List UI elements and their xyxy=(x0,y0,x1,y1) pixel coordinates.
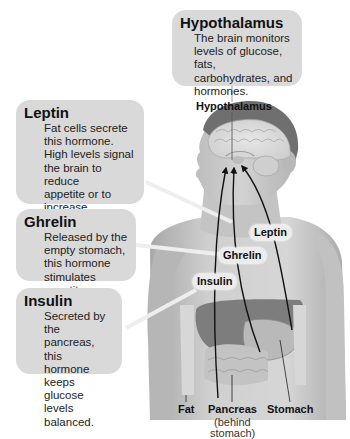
insulin-callout: Insulin Secreted by the pancreas, this h… xyxy=(16,288,122,374)
hypothalamus-callout: Hypothalamus The brain monitors levels o… xyxy=(172,10,302,86)
text-line: pancreas, this xyxy=(44,336,114,362)
fat-label: Fat xyxy=(178,403,195,416)
leptin-callout: Leptin Fat cells secrete this hormone. H… xyxy=(16,100,144,204)
text-line: glucose levels xyxy=(44,389,114,415)
text-line: Released by the xyxy=(44,231,128,244)
stomach-label: Stomach xyxy=(267,403,313,416)
leptin-pill: Leptin xyxy=(250,225,291,240)
text-line: carbohydrates, and xyxy=(194,72,294,85)
hypothalamus-label: Hypothalamus xyxy=(196,100,268,113)
hypothalamus-callout-title: Hypothalamus xyxy=(180,14,294,31)
text-line: balanced. xyxy=(44,416,114,429)
ghrelin-callout: Ghrelin Released by the empty stomach, t… xyxy=(16,209,136,281)
text-line: The brain monitors xyxy=(194,32,294,45)
text-line: High levels signal xyxy=(44,148,136,161)
text-line: levels of glucose, fats, xyxy=(194,45,294,71)
text-line: this hormone xyxy=(44,257,128,270)
insulin-callout-text: Secreted by the pancreas, this hormone k… xyxy=(24,310,114,429)
insulin-callout-title: Insulin xyxy=(24,292,114,309)
text-line: hormone keeps xyxy=(44,363,114,389)
intestine-shape xyxy=(204,344,268,385)
text-line: hormones. xyxy=(194,85,294,98)
text-line: Secreted by the xyxy=(44,310,114,336)
pancreas-label: Pancreas xyxy=(208,403,257,416)
text-line: empty stomach, xyxy=(44,244,128,257)
insulin-pill: Insulin xyxy=(193,274,236,289)
hypothalamus-callout-text: The brain monitors levels of glucose, fa… xyxy=(180,32,294,98)
text-line: appetite or to xyxy=(44,188,136,201)
ghrelin-callout-title: Ghrelin xyxy=(24,213,128,230)
text-line: this hormone. xyxy=(44,135,136,148)
text-line: the brain to reduce xyxy=(44,162,136,188)
pancreas-sub-label-2: stomach) xyxy=(210,427,255,439)
ghrelin-pill: Ghrelin xyxy=(219,248,266,263)
leptin-callout-title: Leptin xyxy=(24,104,136,121)
text-line: Fat cells secrete xyxy=(44,122,136,135)
